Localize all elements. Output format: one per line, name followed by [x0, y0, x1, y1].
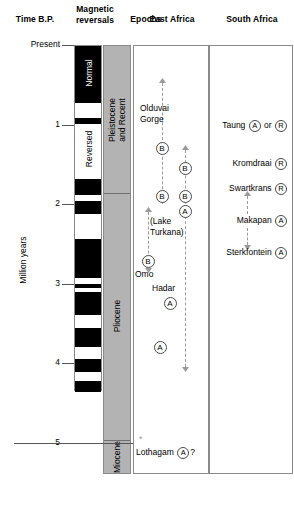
- axis-tick-line: [62, 284, 74, 285]
- axis-tick-2: 2: [0, 204, 74, 205]
- axis-tick-line: [62, 45, 74, 46]
- epoch-divider: [104, 193, 130, 194]
- epochs-column: Pleistoceneand RecentPlioceneMiocene: [103, 45, 131, 474]
- axis-tick-line: [62, 363, 74, 364]
- magnetic-reversals-column: Normal Reversed: [74, 45, 102, 391]
- site-label-hadar: Hadar: [152, 283, 196, 294]
- taxon-marker-r: R: [275, 120, 287, 132]
- axis-tick-label: 3: [55, 278, 60, 288]
- taxon-marker-b: B: [142, 255, 155, 268]
- south-africa-panel: [209, 45, 293, 474]
- magnetic-band-normal: [75, 359, 101, 372]
- magnetic-band-normal: [75, 381, 101, 391]
- site-label-lake-turkana: (LakeTurkana): [150, 216, 210, 237]
- site-label-lothagam: Lothagam A?: [136, 447, 208, 459]
- range-arrow-up: [182, 145, 189, 150]
- epoch-label: Pleistoceneand Recent: [107, 81, 127, 159]
- axis-tick-line: [62, 204, 74, 205]
- axis-tick-1: 1: [0, 125, 74, 126]
- axis-title-million-years: Million years: [18, 215, 28, 305]
- axis-tick-4: 4: [0, 363, 74, 364]
- magnetic-band-normal: [75, 201, 101, 214]
- axis-tick-label: 2: [55, 198, 60, 208]
- site-label-swartkrans: Swartkrans R: [208, 183, 288, 195]
- header-magnetic-reversals: Magneticreversals: [64, 4, 126, 25]
- magnetic-band-normal: [75, 239, 101, 278]
- taxon-marker-a: A: [164, 297, 177, 310]
- magnetic-label-normal: Normal: [84, 46, 94, 100]
- axis-tick-label: 4: [55, 357, 60, 367]
- axis-tick-3: 3: [0, 284, 74, 285]
- taxon-marker-a: A: [275, 247, 287, 259]
- taxon-marker-r: R: [275, 158, 287, 170]
- header-south-africa: South Africa: [210, 14, 294, 25]
- header-east-africa: East Africa: [133, 14, 211, 25]
- taxon-marker-r: R: [275, 183, 287, 195]
- axis-tick-present: Present: [0, 45, 74, 46]
- taxon-marker-a: A: [154, 341, 167, 354]
- range-arrow-up: [145, 207, 152, 212]
- epoch-label: Miocene: [112, 418, 122, 496]
- magnetic-label-reversed: Reversed: [84, 117, 94, 181]
- taxon-marker-b: B: [156, 190, 169, 203]
- taxon-marker-b: B: [179, 190, 192, 203]
- axis-tick-label: Present: [31, 39, 60, 49]
- axis-tick-line: [62, 125, 74, 126]
- taxon-marker-a: A: [177, 447, 189, 459]
- site-range-line: [247, 196, 248, 213]
- magnetic-band-normal: [75, 292, 101, 315]
- taxon-marker-b: B: [156, 142, 169, 155]
- header-time-bp: Time B.P.: [2, 14, 68, 25]
- site-label-olduvai-gorge: OlduvaiGorge: [140, 103, 200, 124]
- magnetic-band-normal: [75, 284, 101, 289]
- axis-tick-label: 1: [55, 119, 60, 129]
- range-arrow-up: [159, 78, 166, 83]
- chronology-chart: Time B.P. Magneticreversals Epochs East …: [0, 0, 294, 523]
- range-arrow-down: [182, 367, 189, 372]
- lothagam-asterisk: *: [139, 434, 143, 444]
- taxon-marker-b: B: [179, 162, 192, 175]
- site-label-taung: Taung A or R: [208, 120, 288, 132]
- site-label-kromdraai: Kromdraai R: [208, 158, 288, 170]
- axis-tick-label: 5: [55, 437, 60, 447]
- taxon-marker-a: A: [249, 120, 261, 132]
- magnetic-band-normal: [75, 328, 101, 346]
- site-label-makapan: Makapan A: [208, 215, 288, 227]
- site-label-omo: Omo: [135, 269, 175, 280]
- site-label-sterkfontein: Sterkfontein A: [208, 247, 288, 259]
- axis-rule-5ma: [44, 443, 133, 444]
- magnetic-band-normal: [75, 179, 101, 195]
- site-range-line: [247, 228, 248, 245]
- taxon-marker-a: A: [275, 215, 287, 227]
- epoch-label: Pliocene: [112, 277, 122, 355]
